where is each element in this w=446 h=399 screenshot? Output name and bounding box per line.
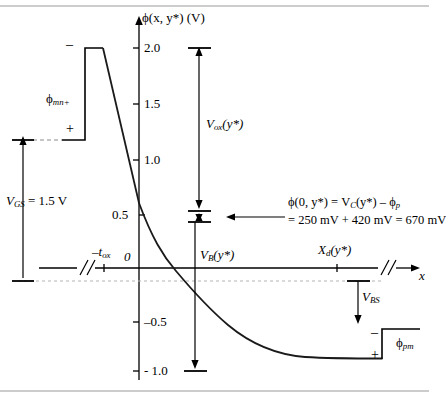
vox-symbol: V xyxy=(206,116,214,131)
phi-mn-subscript: mn+ xyxy=(53,97,70,107)
y-tick-label-neg1p0: - 1.0 xyxy=(144,364,168,377)
y-tick-label-0p5: 0.5 xyxy=(112,208,128,221)
vgs-value: = 1.5 V xyxy=(28,193,67,208)
vbs-arrowhead-down xyxy=(354,315,361,324)
surface-potential-annotation-line2: = 250 mV + 420 mV = 670 mV xyxy=(288,214,446,227)
vgs-label: VGS = 1.5 V xyxy=(6,194,67,209)
gate-minus-sign: – xyxy=(66,38,73,52)
x-axis-label: x xyxy=(419,269,425,282)
x-axis-break-right-slash2 xyxy=(388,260,396,275)
xd-symbol: X xyxy=(318,242,326,257)
phi-mn-symbol: ϕ xyxy=(46,91,53,106)
vox-arrowhead-down xyxy=(195,200,202,209)
y-tick-label-neg0p5: –0.5 xyxy=(144,315,167,328)
surface-annotation-pointer-head xyxy=(226,213,235,220)
y-tick-label-1p0: 1.0 xyxy=(144,153,160,166)
x-axis-break-left-slash1 xyxy=(80,260,88,275)
y-axis-label: ϕ(x, y*) (V) xyxy=(142,11,205,24)
xd-argument: (y*) xyxy=(330,242,351,257)
phi-mn-label: ϕmn+ xyxy=(46,92,70,107)
vgs-symbol: V xyxy=(6,193,14,208)
phi-pm-symbol: ϕ xyxy=(396,335,403,350)
vgs-subscript: GS xyxy=(14,199,25,209)
y-tick-label-2p0: 2.0 xyxy=(144,41,160,54)
vb-symbol: V xyxy=(200,247,208,262)
oxide-linear-potential-segment xyxy=(103,48,139,203)
phi-pm-label: ϕpm xyxy=(396,336,414,351)
vbs-symbol: V xyxy=(362,289,370,304)
gate-plus-sign: + xyxy=(66,122,74,136)
vb-argument: (y*) xyxy=(213,247,234,262)
phi-pm-subscript: pm xyxy=(403,341,414,351)
x-axis-break-right-slash1 xyxy=(381,260,389,275)
x-tick-label-xd: Xd(y*) xyxy=(318,243,351,258)
vox-label: Vox(y*) xyxy=(206,117,243,132)
surface-annotation-part2: (y*) – ϕ xyxy=(356,195,396,209)
origin-label: 0 xyxy=(124,250,131,263)
vbs-subscript: BS xyxy=(370,295,380,305)
vb-arrowhead-down xyxy=(191,360,198,369)
bulk-minus-sign: – xyxy=(371,326,378,340)
tox-subscript: ox xyxy=(102,250,110,260)
tox-symbol: –t xyxy=(92,244,102,259)
x-axis-break-left-slash2 xyxy=(87,260,95,275)
vox-argument: (y*) xyxy=(222,116,243,131)
vbs-label: VBS xyxy=(362,290,380,305)
y-tick-label-1p5: 1.5 xyxy=(144,97,160,110)
surface-potential-annotation-line1: ϕ(0, y*) = VC(y*) – ϕp xyxy=(288,196,400,210)
x-tick-label-minus-tox: –tox xyxy=(92,245,110,260)
surface-annotation-part1: ϕ(0, y*) = V xyxy=(288,195,350,209)
bulk-plus-sign: + xyxy=(371,348,379,362)
vb-label: VB(y*) xyxy=(200,248,234,263)
surface-annotation-sub-p: p xyxy=(396,200,400,210)
